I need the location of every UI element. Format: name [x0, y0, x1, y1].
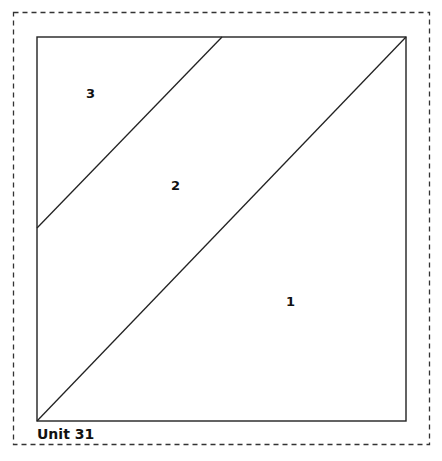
seam-line-3-2 — [37, 37, 222, 228]
piece-2-label: 2 — [171, 179, 180, 192]
unit-title: Unit 31 — [37, 427, 94, 441]
piece-1-label: 1 — [286, 295, 295, 308]
piece-3-label: 3 — [86, 87, 95, 100]
unit-diagram — [0, 0, 442, 461]
